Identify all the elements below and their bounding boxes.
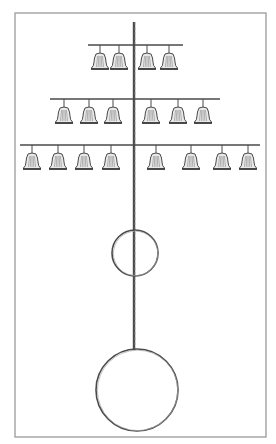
frame-rect	[15, 13, 266, 437]
bell-icon	[110, 45, 128, 69]
bell-icon	[160, 45, 178, 69]
bell-icon	[91, 45, 109, 69]
bell-icon	[55, 99, 73, 123]
bell-icon	[75, 145, 93, 169]
bell-icon	[102, 145, 120, 169]
bell-frame-illustration	[0, 0, 276, 444]
bell-icon	[147, 145, 165, 169]
bell-icon	[182, 145, 200, 169]
tier-bottom	[20, 145, 260, 169]
bell-icon	[239, 145, 257, 169]
bell-tiers	[20, 45, 260, 169]
bell-icon	[104, 99, 122, 123]
central-pole	[134, 22, 135, 349]
bell-icon	[169, 99, 187, 123]
frame-border	[15, 13, 266, 437]
bell-icon	[23, 145, 41, 169]
bell-icon	[49, 145, 67, 169]
bell-icon	[138, 45, 156, 69]
bell-icon	[213, 145, 231, 169]
bell-icon	[80, 99, 98, 123]
bell-icon	[194, 99, 212, 123]
bell-icon	[142, 99, 160, 123]
rings	[96, 230, 178, 431]
